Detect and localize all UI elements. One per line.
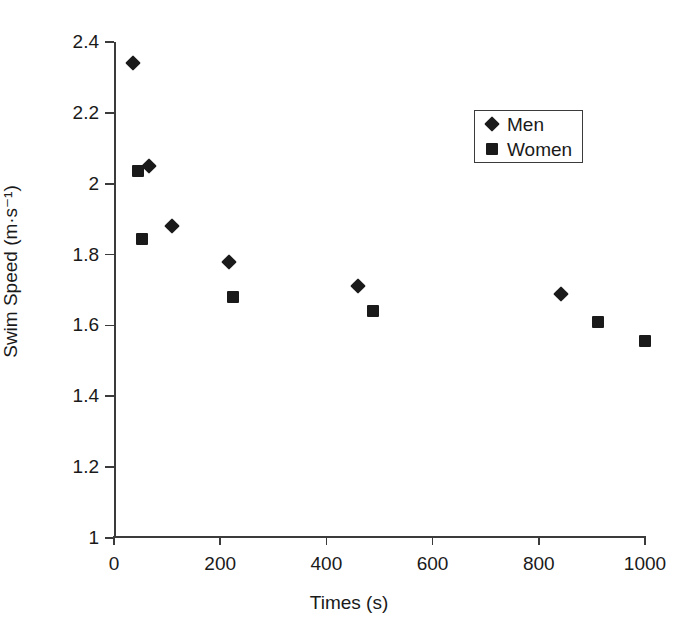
data-point-men — [125, 55, 141, 71]
data-point-men — [164, 218, 180, 234]
legend-label-women: Women — [507, 140, 572, 159]
x-tick-mark — [326, 536, 328, 545]
x-tick-label: 0 — [79, 554, 149, 573]
x-tick-mark — [538, 536, 540, 545]
data-point-women — [227, 291, 239, 303]
y-tick-label: 1.2 — [39, 457, 99, 476]
x-tick-mark — [644, 536, 646, 545]
x-tick-mark — [113, 536, 115, 545]
y-tick-mark — [105, 395, 114, 397]
legend-label-men: Men — [507, 115, 544, 134]
y-tick-mark — [105, 112, 114, 114]
data-point-women — [592, 316, 604, 328]
y-tick-label: 2 — [39, 174, 99, 193]
y-tick-mark — [105, 183, 114, 185]
x-tick-label: 1000 — [610, 554, 680, 573]
data-point-men — [221, 254, 237, 270]
data-point-men — [350, 279, 366, 295]
legend-item-women: Women — [484, 138, 572, 160]
data-point-women — [132, 165, 144, 177]
y-axis-title: Swim Speed (m·s⁻¹) — [0, 0, 22, 552]
x-axis-line — [114, 536, 645, 538]
x-tick-label: 600 — [398, 554, 468, 573]
y-tick-label: 1 — [39, 528, 99, 547]
y-tick-mark — [105, 466, 114, 468]
data-point-men — [553, 286, 569, 302]
x-tick-mark — [432, 536, 434, 545]
y-tick-mark — [105, 325, 114, 327]
legend-item-men: Men — [484, 113, 544, 135]
y-tick-label: 1.6 — [39, 315, 99, 334]
scatter-plot-figure: Swim Speed (m·s⁻¹) Times (s) 11.21.41.61… — [0, 0, 698, 636]
x-axis-title: Times (s) — [0, 592, 698, 614]
data-point-women — [367, 305, 379, 317]
y-tick-label: 1.4 — [39, 386, 99, 405]
x-tick-mark — [219, 536, 221, 545]
y-axis-line — [114, 42, 116, 538]
y-tick-label: 1.8 — [39, 245, 99, 264]
y-tick-mark — [105, 254, 114, 256]
x-tick-label: 800 — [504, 554, 574, 573]
square-marker-icon — [484, 138, 500, 160]
x-tick-label: 400 — [291, 554, 361, 573]
legend: Men Women — [474, 110, 583, 163]
y-tick-mark — [105, 41, 114, 43]
data-point-women — [136, 233, 148, 245]
data-point-women — [639, 335, 651, 347]
y-tick-label: 2.2 — [39, 103, 99, 122]
y-tick-label: 2.4 — [39, 32, 99, 51]
diamond-marker-icon — [484, 113, 500, 135]
x-tick-label: 200 — [185, 554, 255, 573]
